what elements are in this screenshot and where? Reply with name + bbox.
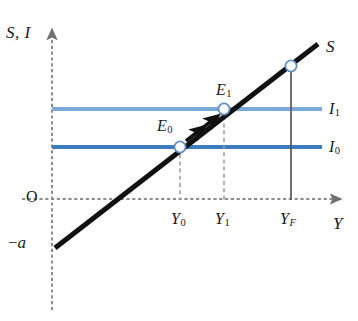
chart-canvas [0, 0, 358, 321]
y0-base: Y [171, 210, 180, 227]
x-tick-label-y1: Y1 [215, 211, 230, 229]
intercept-variable: a [18, 233, 27, 252]
savings-investment-chart: S, I Y O −a S I1 I0 E0 E1 Y0 Y1 YF [0, 0, 358, 321]
intercept-minus-sign: − [8, 233, 18, 252]
e1-base: E [216, 81, 226, 98]
point-e0-label: E0 [157, 118, 173, 136]
i0-line-label: I0 [329, 139, 340, 157]
y-axis-label: S, I [6, 24, 31, 41]
x-tick-label-y0: Y0 [171, 211, 186, 229]
point-e1-marker [218, 103, 229, 114]
y1-subscript: 1 [224, 217, 230, 228]
x-axis-label: Y [333, 215, 342, 232]
i1-line-label: I1 [329, 101, 340, 119]
origin-label: O [26, 189, 38, 205]
y0-subscript: 0 [180, 217, 186, 228]
point-e0-marker [174, 141, 185, 152]
yf-subscript: F [289, 217, 296, 228]
y1-base: Y [215, 210, 224, 227]
y-intercept-label: −a [8, 234, 26, 251]
e0-subscript: 0 [167, 124, 173, 135]
point-yf-marker [285, 60, 296, 71]
yf-base: Y [280, 210, 289, 227]
i0-subscript: 0 [334, 145, 340, 156]
point-e1-label: E1 [216, 82, 232, 100]
i1-subscript: 1 [334, 107, 340, 118]
e1-subscript: 1 [226, 88, 232, 99]
x-tick-label-yf: YF [280, 211, 296, 229]
s-curve-label: S [326, 38, 335, 55]
e0-base: E [157, 117, 167, 134]
